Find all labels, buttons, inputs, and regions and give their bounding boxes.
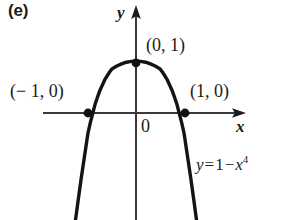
equation-annotation: y=1−x4 [196, 156, 248, 173]
equation-exponent: 4 [243, 153, 249, 165]
figure-panel: (e) y x 0 (0, 1) (− 1, 0) (1, 0) y=1−x4 [0, 0, 284, 220]
equation-one: 1 [215, 155, 224, 174]
x-axis-label: x [236, 118, 245, 135]
y-axis-label: y [117, 4, 125, 21]
point-label-left-intercept: (− 1, 0) [10, 82, 64, 100]
point-label-right-intercept: (1, 0) [190, 82, 229, 100]
point-dot-vertex [132, 59, 141, 68]
equation-equals: = [204, 155, 216, 174]
point-label-vertex: (0, 1) [146, 36, 185, 54]
equation-x: x [235, 155, 243, 174]
equation-y: y [196, 155, 204, 174]
panel-letter: (e) [8, 2, 28, 19]
equation-minus: − [224, 155, 236, 174]
origin-label: 0 [141, 117, 150, 135]
point-dot-right-intercept [181, 109, 190, 118]
coordinate-plot [0, 0, 284, 220]
point-dot-left-intercept [84, 109, 93, 118]
